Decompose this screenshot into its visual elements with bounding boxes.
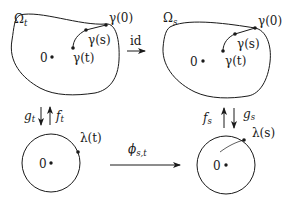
phi-arrow: ϕs,t [110,142,180,165]
origin-label: 0 [39,157,47,171]
lambda-s-label: λ(s) [252,126,275,140]
left-vertical-maps: gt ft [24,107,64,125]
gamma-t-label: γ(t) [225,54,246,68]
gamma-s-label: γ(s) [88,33,111,47]
origin-dot [201,59,204,62]
gamma-t-label: γ(t) [73,51,94,65]
phi-label: ϕs,t [128,142,147,158]
gamma-0-label: γ(0) [258,14,282,28]
id-label: id [130,34,142,48]
domain-omega-s-boundary [163,22,270,98]
lambda-t-label: λ(t) [80,131,102,145]
f-s-label: fs [202,111,212,126]
unit-disk-right: 0 λ(s) [197,126,275,194]
lambda-t-dot [76,150,80,154]
gamma-0-dot [104,23,108,27]
gamma-s-dot [84,28,88,32]
gamma-0-label: γ(0) [109,11,133,25]
unit-disk-left: 0 λ(t) [22,131,102,192]
domain-omega-t: Ωt 0 γ(0) γ(s) γ(t) [11,11,133,95]
origin-dot [50,55,53,58]
commutative-diagram: Ωt 0 γ(0) γ(s) γ(t) id Ωs 0 γ(0) γ(s) γ(… [0,0,291,210]
gamma-s-dot [233,32,237,36]
g-t-label: gt [24,109,36,124]
lambda-s-dot [242,138,246,142]
gamma-0-dot [253,26,257,30]
origin-label: 0 [40,51,48,65]
right-vertical-maps: fs gs [202,107,256,128]
origin-label: 0 [213,159,221,173]
gamma-t-dot [221,49,225,53]
origin-dot [49,161,52,164]
diagram-canvas: Ωt 0 γ(0) γ(s) γ(t) id Ωs 0 γ(0) γ(s) γ(… [0,0,291,210]
identity-arrow: id [127,34,145,51]
origin-dot [224,163,227,166]
omega-s-label: Ωs [163,11,178,27]
lambda-curve [220,140,244,152]
domain-omega-s: Ωs 0 γ(0) γ(s) γ(t) [163,11,282,98]
gamma-s-label: γ(s) [237,37,260,51]
g-s-label: gs [243,107,256,122]
origin-label: 0 [190,55,198,69]
f-t-label: ft [55,109,64,124]
gamma-t-dot [71,46,75,50]
